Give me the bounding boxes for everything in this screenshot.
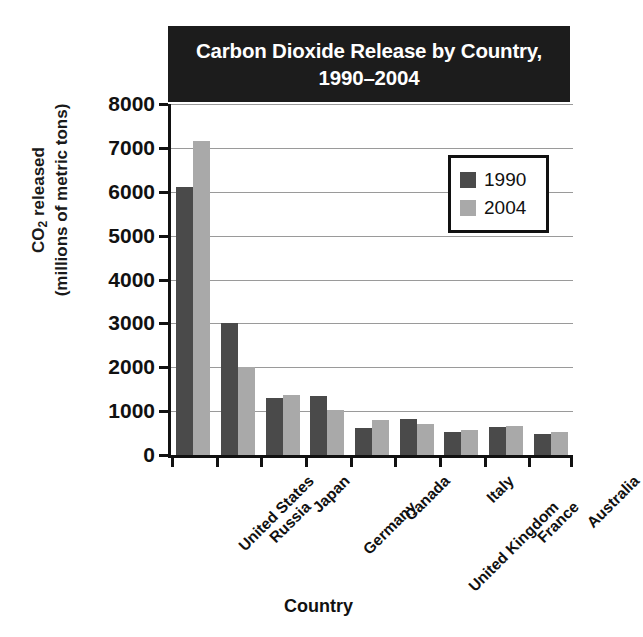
x-axis-label-australia: Australia [583, 472, 643, 532]
bar-group [260, 104, 305, 455]
legend-label-1990: 1990 [484, 169, 526, 191]
bar-2004 [417, 424, 434, 455]
x-axis-label-italy: Italy [483, 472, 518, 507]
x-axis-tick [570, 456, 573, 467]
y-axis-title-line-2: (millions of metric tons) [51, 104, 73, 297]
legend: 1990 2004 [448, 155, 549, 233]
y-axis-tick-label: 6000 [108, 180, 155, 204]
bar-1990 [310, 396, 327, 455]
y-axis-tick [159, 191, 168, 194]
y-axis-tick [159, 410, 168, 413]
x-axis-label-canada: Canada [401, 472, 453, 524]
bar-2004 [327, 410, 344, 455]
legend-entry-2004: 2004 [460, 197, 546, 219]
bar-2004 [506, 426, 523, 455]
bar-1990 [400, 419, 417, 455]
y-axis-title-line-1: CO2 released [28, 147, 51, 253]
x-axis-category-labels: United StatesRussiaJapanGermanyCanadaUni… [168, 470, 570, 580]
y-axis-tick [159, 279, 168, 282]
bar-group [305, 104, 350, 455]
y-axis-title: CO2 released (millions of metric tons) [20, 50, 80, 350]
dark-gray-swatch-icon [460, 172, 476, 188]
bar-2004 [461, 430, 478, 455]
y-axis-tick-label: 4000 [108, 268, 155, 292]
y-axis-tick [159, 103, 168, 106]
legend-entry-1990: 1990 [460, 169, 546, 191]
y-axis-tick-label: 5000 [108, 224, 155, 248]
chart-title-line-2: 1990–2004 [319, 64, 420, 91]
chart-title-line-1: Carbon Dioxide Release by Country, [196, 37, 542, 64]
bar-2004 [193, 141, 210, 455]
y-axis-tick [159, 322, 168, 325]
y-axis-tick [159, 366, 168, 369]
y-axis-tick-label: 7000 [108, 136, 155, 160]
bar-2004 [551, 432, 568, 455]
x-axis-tick [439, 456, 442, 467]
x-axis-tick [484, 456, 487, 467]
bar-1990 [489, 427, 506, 455]
bar-group [171, 104, 216, 455]
y-axis-tick-label: 8000 [108, 92, 155, 116]
bar-group [350, 104, 395, 455]
legend-label-2004: 2004 [484, 197, 526, 219]
y-axis-tick-label: 3000 [108, 311, 155, 335]
bar-1990 [266, 398, 283, 455]
x-axis-tick [171, 456, 174, 467]
x-axis-title: Country [0, 596, 637, 617]
bar-1990 [176, 187, 193, 455]
x-axis-tick [305, 456, 308, 467]
y-axis-tick [159, 147, 168, 150]
chart-title: Carbon Dioxide Release by Country, 1990–… [168, 26, 570, 102]
bar-group [216, 104, 261, 455]
x-axis-tick [350, 456, 353, 467]
x-axis-tick [394, 456, 397, 467]
y-axis-tick-label: 1000 [108, 399, 155, 423]
x-axis-tick [260, 456, 263, 467]
y-axis-tick-label: 2000 [108, 355, 155, 379]
y-axis-tick [159, 235, 168, 238]
bar-2004 [372, 420, 389, 455]
x-axis-label-united-kingdom: United Kingdom [465, 498, 562, 595]
bar-1990 [534, 434, 551, 455]
bar-2004 [283, 395, 300, 455]
y-axis-tick [159, 454, 168, 457]
x-axis-tick [216, 456, 219, 467]
bar-1990 [221, 323, 238, 455]
x-axis-tick [528, 456, 531, 467]
bar-1990 [444, 432, 461, 455]
bar-1990 [355, 428, 372, 455]
bar-2004 [238, 367, 255, 455]
y-axis-tick-label: 0 [143, 443, 155, 467]
light-gray-swatch-icon [460, 200, 476, 216]
x-axis-label-japan: Japan [309, 472, 353, 516]
bar-group [394, 104, 439, 455]
